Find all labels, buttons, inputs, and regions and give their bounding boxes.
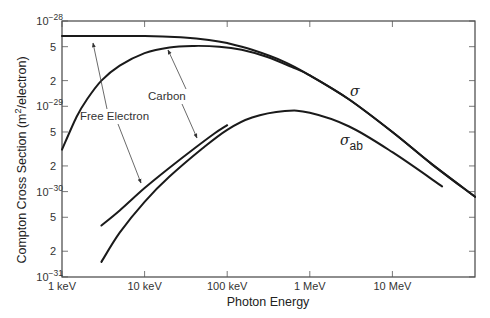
x-axis-ticks: 1 keV10 keV100 keV1 MeV10 MeV xyxy=(48,21,412,292)
y-tick-label: 2 xyxy=(50,160,56,172)
y-tick-label: 5 xyxy=(50,126,56,138)
x-tick-label: 10 MeV xyxy=(373,280,412,292)
carbon-label: Carbon xyxy=(148,90,186,102)
compton-cross-section-chart: 1 keV10 keV100 keV1 MeV10 MeV 10−285210−… xyxy=(0,0,490,318)
arrow-icon xyxy=(118,124,141,183)
y-tick-label: 2 xyxy=(50,245,56,257)
series-line xyxy=(101,111,442,262)
x-tick-label: 1 MeV xyxy=(294,280,326,292)
y-axis-title: Compton Cross Section (m2/electron) xyxy=(13,56,29,263)
sigma-label: σ xyxy=(350,83,360,99)
data-series xyxy=(62,36,475,262)
y-tick-label: 2 xyxy=(50,75,56,87)
sigma-ab-label: σab xyxy=(340,132,363,153)
y-tick-label: 10−30 xyxy=(36,183,63,198)
arrow-icon xyxy=(182,104,197,138)
x-axis-title: Photon Energy xyxy=(227,295,310,309)
y-tick-label: 10−28 xyxy=(36,12,63,27)
x-tick-label: 10 keV xyxy=(127,280,162,292)
series-line xyxy=(101,125,227,225)
x-tick-label: 100 keV xyxy=(207,280,248,292)
y-tick-label: 5 xyxy=(50,41,56,53)
arrow-icon xyxy=(168,50,186,89)
x-tick-label: 1 keV xyxy=(48,280,77,292)
y-tick-label: 5 xyxy=(50,211,56,223)
y-tick-label: 10−29 xyxy=(36,97,63,112)
free-electron-label: Free Electron xyxy=(80,110,149,122)
